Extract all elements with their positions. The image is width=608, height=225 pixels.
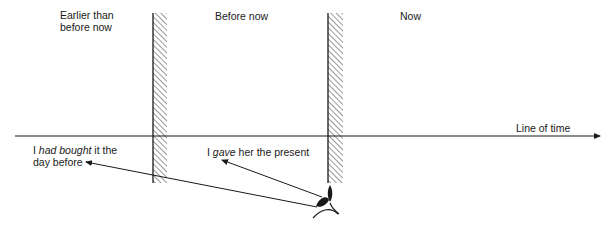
timeline-label: Line of time — [516, 122, 570, 134]
boundary-bar-earlier-before — [153, 13, 167, 183]
zone-label-now: Now — [400, 10, 421, 22]
boundary-bar-before-now — [328, 13, 343, 183]
timeline-diagram — [0, 0, 608, 225]
sentence-verb: gave — [213, 146, 236, 158]
zone-label-earlier-line1: Earlier than — [60, 9, 114, 21]
arrow-to-past-perfect — [86, 162, 317, 207]
zone-label-earlier: Earlier than before now — [60, 9, 114, 33]
sentence-suffix: it the — [91, 144, 117, 156]
zone-label-before-now: Before now — [215, 10, 268, 22]
sentence-past-simple: I gave her the present — [207, 146, 309, 158]
eye-icon — [313, 185, 339, 218]
sentence-past-perfect-line2: day before — [33, 156, 117, 168]
sentence-verb: had bought — [39, 144, 92, 156]
sentence-past-perfect: I had bought it the day before — [33, 144, 117, 168]
sentence-past-perfect-line1: I had bought it the — [33, 144, 117, 156]
sentence-suffix: her the present — [236, 146, 310, 158]
zone-label-earlier-line2: before now — [60, 21, 114, 33]
